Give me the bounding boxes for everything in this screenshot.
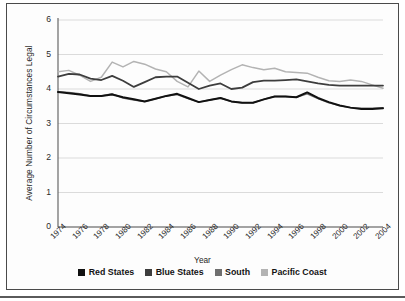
- y-tick-label-5: 5: [29, 49, 51, 59]
- x-axis-title: Year: [0, 255, 405, 265]
- y-tick-label-1: 1: [29, 187, 51, 197]
- legend-label: Red States: [89, 267, 134, 277]
- y-tick-label-4: 4: [29, 83, 51, 93]
- legend-label: South: [225, 267, 250, 277]
- line-chart: Average Number of Circumstances Legal 01…: [0, 0, 405, 301]
- y-tick-label-3: 3: [29, 118, 51, 128]
- legend-swatch-icon: [215, 269, 222, 276]
- legend-item-blue-states: Blue States: [145, 267, 203, 277]
- figure-container: Average Number of Circumstances Legal 01…: [0, 0, 405, 301]
- legend-swatch-icon: [145, 269, 152, 276]
- legend-item-south: South: [215, 267, 250, 277]
- y-tick-label-0: 0: [29, 221, 51, 231]
- y-tick-label-6: 6: [29, 14, 51, 24]
- chart-legend: Red StatesBlue StatesSouthPacific Coast: [0, 267, 405, 277]
- y-tick-label-2: 2: [29, 152, 51, 162]
- legend-label: Blue States: [156, 267, 204, 277]
- series-line-red-states: [58, 92, 383, 109]
- legend-label: Pacific Coast: [272, 267, 327, 277]
- legend-item-pacific-coast: Pacific Coast: [261, 267, 327, 277]
- legend-item-red-states: Red States: [78, 267, 134, 277]
- legend-swatch-icon: [261, 269, 268, 276]
- legend-swatch-icon: [78, 269, 85, 276]
